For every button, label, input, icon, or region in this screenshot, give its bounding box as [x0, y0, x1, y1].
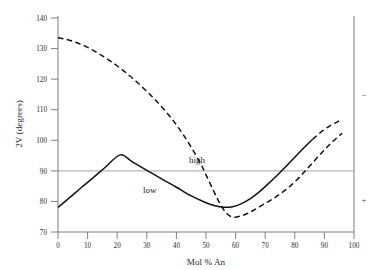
x-tick-label-40: 40 — [173, 242, 181, 250]
data-series-group — [58, 38, 342, 218]
chart-figure: 140 130 120 110 100 90 80 70 0 10 20 — [0, 0, 378, 270]
x-tick-label-60: 60 — [232, 242, 240, 250]
x-axis-title: Mol % An — [187, 257, 226, 267]
x-tick-label-90: 90 — [321, 242, 329, 250]
y-axis-ticks — [51, 18, 58, 232]
x-tick-label-30: 30 — [143, 242, 151, 250]
x-tick-label-20: 20 — [114, 242, 122, 250]
x-tick-label-80: 80 — [291, 242, 299, 250]
series-low-curve-dashed — [313, 121, 340, 140]
x-tick-label-0: 0 — [56, 242, 60, 250]
x-axis-tick-labels: 0 10 20 30 40 50 60 70 80 90 100 — [56, 242, 360, 250]
y-tick-label-70: 70 — [40, 229, 48, 237]
y-tick-label-120: 120 — [36, 76, 47, 84]
x-tick-label-10: 10 — [84, 242, 92, 250]
y-axis-title: 2V (degrees) — [14, 100, 24, 148]
chart-canvas: 140 130 120 110 100 90 80 70 0 10 20 — [0, 0, 378, 270]
x-tick-label-50: 50 — [202, 242, 210, 250]
y-tick-label-140: 140 — [36, 15, 47, 23]
y-axis-tick-labels: 140 130 120 110 100 90 80 70 — [36, 15, 47, 237]
y-tick-label-110: 110 — [36, 106, 47, 114]
plot-frame — [58, 16, 354, 232]
x-axis-ticks — [58, 232, 354, 239]
low-curve-label: low — [143, 185, 157, 195]
series-high-curve — [58, 38, 342, 218]
y-tick-label-90: 90 — [40, 168, 48, 176]
y-tick-label-80: 80 — [40, 198, 48, 206]
optic-sign-negative-label: − — [361, 90, 366, 100]
high-curve-label: high — [189, 155, 206, 165]
x-tick-label-70: 70 — [262, 242, 270, 250]
y-tick-label-130: 130 — [36, 45, 47, 53]
optic-sign-positive-label: + — [361, 195, 366, 205]
y-tick-label-100: 100 — [36, 137, 47, 145]
x-tick-label-100: 100 — [349, 242, 360, 250]
